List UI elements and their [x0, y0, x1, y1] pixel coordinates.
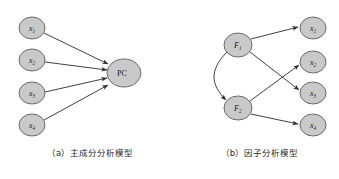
node-F2[interactable]: F2 [224, 96, 252, 120]
node-x2[interactable]: x2 [19, 49, 45, 71]
edge-F1-F2-correlation [214, 53, 226, 100]
node-pc-label: PC [117, 69, 127, 78]
caption-factor-analysis: （b）因子分析模型 [180, 146, 339, 158]
panel-pca: x1 x2 x3 x4 PC （a）主成分分析模型 [0, 0, 180, 179]
edge-F1-x3 [250, 52, 299, 90]
pca-diagram: x1 x2 x3 x4 PC [0, 0, 180, 140]
caption-pca: （a）主成分分析模型 [0, 146, 180, 158]
edge-F1-x1 [251, 27, 298, 39]
node-bx1[interactable]: x1 [300, 17, 326, 39]
node-x1[interactable]: x1 [19, 17, 45, 39]
node-bx2[interactable]: x2 [300, 51, 326, 73]
node-F1[interactable]: F1 [224, 33, 252, 57]
edge-F2-x2 [250, 65, 299, 101]
factor-edges [250, 27, 299, 124]
node-bx4[interactable]: x4 [300, 114, 326, 136]
edge-F2-x4 [251, 114, 298, 124]
pca-edges [44, 33, 108, 120]
node-bx3[interactable]: x3 [300, 82, 326, 104]
edge-x1-pc [44, 33, 108, 64]
factor-analysis-diagram: F1 F2 x1 x2 x3 x4 [180, 0, 339, 140]
figure-container: —— —— ─ x1 x2 [0, 0, 339, 179]
node-x3[interactable]: x3 [19, 82, 45, 104]
panel-factor-analysis: F1 F2 x1 x2 x3 x4 （b [180, 0, 339, 179]
edge-x2-pc [45, 62, 107, 70]
node-pc[interactable]: PC [107, 59, 141, 87]
edge-x3-pc [45, 78, 107, 92]
node-x4[interactable]: x4 [19, 114, 45, 136]
